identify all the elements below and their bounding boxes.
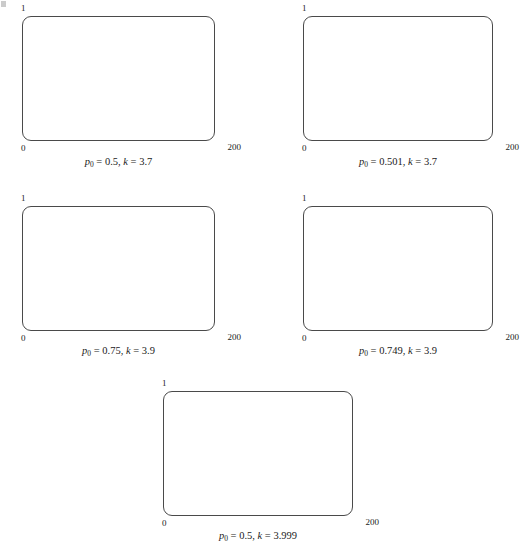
y-min-label-2: 0: [302, 144, 307, 153]
y-max-label-4: 1: [302, 194, 307, 203]
plot-frame-4: [303, 206, 493, 331]
caption-p-value-1: 0.5: [105, 156, 118, 167]
y-min-label-5: 0: [162, 519, 167, 528]
caption-equals-5a: =: [228, 530, 239, 541]
panel-caption-1: p0 = 0.5, k = 3.7: [22, 156, 215, 171]
panel-caption-5: p0 = 0.5, k = 3.999: [163, 530, 353, 545]
x-max-label-3: 200: [228, 333, 242, 342]
x-max-label-2: 200: [506, 143, 520, 152]
scatter-panel-3: 1 0 200: [22, 206, 215, 331]
caption-p-value-2: 0.501: [379, 156, 403, 167]
y-max-label-5: 1: [162, 379, 167, 388]
plot-frame-3: [22, 206, 215, 331]
scatter-panel-1: 1 0 200: [22, 16, 215, 141]
y-max-label-2: 1: [302, 4, 307, 13]
caption-equals-3b: =: [131, 345, 142, 356]
caption-k-value-2: 3.7: [424, 156, 437, 167]
caption-k-value-4: 3.9: [424, 345, 437, 356]
y-min-label-4: 0: [302, 334, 307, 343]
caption-p-value-5: 0.5: [239, 530, 252, 541]
logistic-map-figure: 1 0 200 p0 = 0.5, k = 3.7 1 0 200 p0 = 0…: [0, 0, 521, 552]
caption-equals-4b: =: [413, 345, 424, 356]
caption-equals-5b: =: [262, 530, 273, 541]
scatter-panel-4: 1 0 200: [303, 206, 493, 331]
caption-k-value-5: 3.999: [273, 530, 297, 541]
caption-equals-2b: =: [413, 156, 424, 167]
caption-k-value-3: 3.9: [142, 345, 155, 356]
plot-frame-5: [163, 391, 353, 516]
y-min-label-1: 0: [21, 144, 26, 153]
y-min-label-3: 0: [21, 334, 26, 343]
plot-frame-2: [303, 16, 493, 141]
x-max-label-5: 200: [366, 518, 380, 527]
caption-k-value-1: 3.7: [139, 156, 152, 167]
caption-equals-2a: =: [368, 156, 379, 167]
caption-p-value-4: 0.749: [379, 345, 403, 356]
y-max-label-3: 1: [21, 194, 26, 203]
panel-caption-2: p0 = 0.501, k = 3.7: [303, 156, 493, 171]
x-max-label-1: 200: [228, 143, 242, 152]
plot-frame-1: [22, 16, 215, 141]
caption-equals-3a: =: [91, 345, 102, 356]
caption-p-value-3: 0.75: [102, 345, 120, 356]
caption-equals-4a: =: [368, 345, 379, 356]
scatter-panel-5: 1 0 200: [163, 391, 353, 516]
scan-artifact: [1, 1, 6, 7]
caption-equals-1a: =: [94, 156, 105, 167]
scatter-panel-2: 1 0 200: [303, 16, 493, 141]
caption-equals-1b: =: [128, 156, 139, 167]
y-max-label-1: 1: [21, 4, 26, 13]
panel-caption-4: p0 = 0.749, k = 3.9: [303, 345, 493, 360]
x-max-label-4: 200: [506, 333, 520, 342]
panel-caption-3: p0 = 0.75, k = 3.9: [22, 345, 215, 360]
